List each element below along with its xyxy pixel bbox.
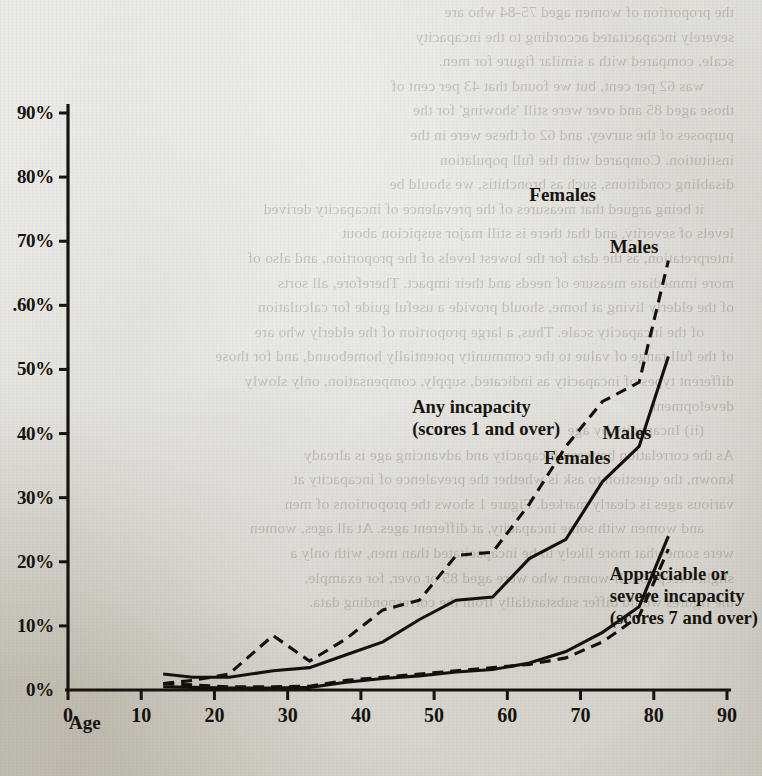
scanned-page: the proportion of women aged 75-84 who a…: [0, 0, 762, 776]
ann-any-males: Males: [610, 236, 659, 257]
y-axis-tick-label: 90%: [0, 102, 54, 124]
series-group: [163, 261, 668, 689]
x-axis-tick-label: 10: [111, 704, 171, 727]
x-axis-tick-label: 50: [404, 704, 464, 727]
y-axis-tick-label: 30%: [0, 487, 54, 509]
y-axis-tick-label: 10%: [0, 615, 54, 637]
x-axis-tick-label: 40: [331, 704, 391, 727]
y-axis-tick-label: 0%: [0, 679, 54, 701]
x-axis-tick-label: 90: [697, 704, 757, 727]
y-axis-tick-label: .60%: [0, 294, 54, 316]
x-axis-tick-label: 60: [477, 704, 537, 727]
chart-plot-area: [0, 0, 762, 776]
ann-any-females: Females: [529, 184, 595, 205]
x-axis-tick-label: 20: [184, 704, 244, 727]
ann-severe-incapacity: Appreciable or severe incapacity (scores…: [610, 563, 758, 629]
x-axis-tick-label: 30: [258, 704, 318, 727]
y-axis-tick-label: 40%: [0, 423, 54, 445]
x-axis-tick-label: 80: [624, 704, 684, 727]
y-axis-tick-label: 80%: [0, 166, 54, 188]
ann-severe-females: Females: [544, 447, 610, 468]
x-axis-title: Age: [69, 712, 101, 734]
incapacity-by-age-chart: 0%10%20%30%40%50%.60%70%80%90% 010203040…: [0, 0, 762, 776]
y-axis-tick-label: 50%: [0, 358, 54, 380]
ann-severe-males: Males: [603, 422, 652, 443]
y-axis-tick-label: 20%: [0, 551, 54, 573]
y-axis-tick-label: 70%: [0, 230, 54, 252]
ann-any-incapacity: Any incapacity (scores 1 and over): [412, 396, 560, 440]
x-axis-tick-label: 70: [551, 704, 611, 727]
